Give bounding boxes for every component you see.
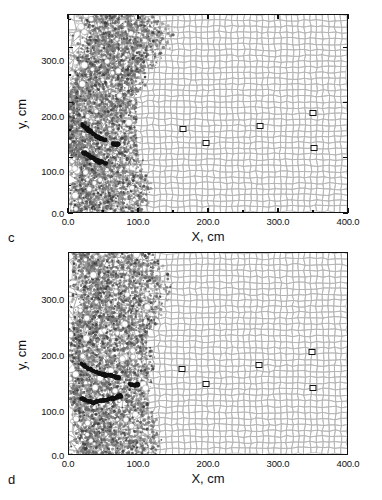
y-tick-major-right bbox=[343, 212, 348, 213]
y-tick-label-d-3: 300.0 bbox=[41, 293, 64, 304]
panel-label-c: c bbox=[8, 230, 15, 245]
tracer-marker bbox=[308, 349, 315, 355]
tracer-marker bbox=[178, 366, 185, 372]
x-tick-label-c-0: 0.0 bbox=[62, 216, 75, 227]
x-tick-major bbox=[277, 208, 278, 213]
x-tick-label-d-1: 100.0 bbox=[127, 458, 150, 469]
y-tick-minor bbox=[68, 19, 71, 20]
tracer-marker bbox=[180, 126, 187, 132]
panel-c: 300.0 200.0 100.0 0.0 0.0 100.0 200.0 30… bbox=[0, 0, 382, 250]
x-axis-title-c: X, cm bbox=[191, 229, 224, 244]
x-tick-major bbox=[137, 208, 138, 213]
y-tick-major bbox=[68, 47, 73, 48]
y-tick-label-c-3: 300.0 bbox=[41, 55, 64, 66]
x-tick-label-c-1: 100.0 bbox=[127, 216, 150, 227]
tracer-marker bbox=[257, 123, 264, 129]
tracer-marker bbox=[203, 381, 210, 387]
y-tick-major-right bbox=[343, 157, 348, 158]
tracer-marker bbox=[310, 385, 317, 391]
y-tick-label-d-1: 100.0 bbox=[41, 406, 64, 417]
y-tick-minor bbox=[68, 74, 71, 75]
x-tick-label-d-2: 200.0 bbox=[197, 458, 220, 469]
x-tick-label-d-4: 400.0 bbox=[337, 458, 360, 469]
y-tick-major-right bbox=[343, 47, 348, 48]
y-axis-title-c: y, cm bbox=[14, 99, 29, 129]
tracer-marker bbox=[311, 145, 318, 151]
tracer-marker bbox=[256, 362, 263, 368]
y-tick-major bbox=[68, 157, 73, 158]
y-tick-minor bbox=[68, 129, 71, 130]
plot-area-c bbox=[68, 14, 348, 213]
x-tick-major-top bbox=[277, 14, 278, 19]
panel-d: 300.0 200.0 100.0 0.0 0.0 100.0 200.0 30… bbox=[0, 250, 382, 500]
plot-area-d bbox=[68, 252, 348, 455]
y-axis-title-d: y, cm bbox=[14, 340, 29, 370]
marker-layer-c bbox=[69, 15, 347, 212]
x-tick-minor bbox=[102, 210, 103, 213]
y-tick-major bbox=[68, 212, 73, 213]
x-axis-title-d: X, cm bbox=[191, 471, 224, 486]
x-tick-label-d-3: 300.0 bbox=[267, 458, 290, 469]
x-tick-major-top bbox=[137, 14, 138, 19]
y-tick-label-c-1: 100.0 bbox=[41, 165, 64, 176]
x-tick-label-c-4: 400.0 bbox=[337, 216, 360, 227]
x-tick-major-top bbox=[347, 14, 348, 19]
figure-root: 300.0 200.0 100.0 0.0 0.0 100.0 200.0 30… bbox=[0, 0, 382, 500]
y-tick-major-right bbox=[343, 102, 348, 103]
panel-label-d: d bbox=[8, 472, 15, 487]
tracer-marker bbox=[203, 140, 210, 146]
tracer-marker bbox=[309, 110, 316, 116]
x-tick-minor bbox=[312, 210, 313, 213]
y-tick-label-c-2: 200.0 bbox=[41, 110, 64, 121]
x-tick-label-c-2: 200.0 bbox=[197, 216, 220, 227]
x-tick-major-top bbox=[207, 14, 208, 19]
marker-layer-d bbox=[69, 253, 347, 454]
x-tick-minor bbox=[242, 210, 243, 213]
y-tick-label-d-2: 200.0 bbox=[41, 350, 64, 361]
x-tick-minor bbox=[172, 210, 173, 213]
y-tick-major bbox=[68, 102, 73, 103]
x-tick-major bbox=[207, 208, 208, 213]
x-tick-label-d-0: 0.0 bbox=[62, 458, 75, 469]
y-tick-minor bbox=[68, 185, 71, 186]
x-tick-label-c-3: 300.0 bbox=[267, 216, 290, 227]
